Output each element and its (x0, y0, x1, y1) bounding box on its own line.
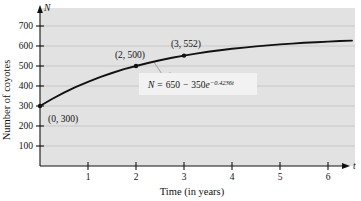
x-tick-label: 1 (86, 172, 91, 182)
x-tick-label: 3 (182, 172, 187, 182)
x-tick-label: 5 (278, 172, 283, 182)
x-tick-label: 6 (326, 172, 331, 182)
data-point-label: (0, 300) (48, 114, 78, 125)
y-axis-symbol: N (43, 3, 51, 13)
x-axis-title: Time (in years) (160, 186, 225, 198)
figure-container: 100200300400500600700 123456 N t Number … (0, 0, 361, 201)
x-tick-label: 4 (230, 172, 235, 182)
data-point-marker (182, 53, 186, 57)
data-point-label: (3, 552) (171, 39, 201, 50)
y-tick-label: 400 (19, 81, 34, 91)
y-tick-label: 600 (19, 41, 34, 51)
data-point-label: (2, 500) (115, 50, 145, 61)
y-tick-label: 100 (19, 141, 34, 151)
y-tick-label: 300 (19, 101, 34, 111)
data-point-marker (134, 64, 138, 68)
y-axis-title: Number of coyotes (1, 60, 12, 140)
y-tick-label: 500 (19, 61, 34, 71)
coyote-population-chart: 100200300400500600700 123456 N t Number … (0, 0, 361, 201)
y-tick-label: 200 (19, 121, 34, 131)
data-point-marker (38, 104, 42, 108)
y-tick-label: 700 (19, 21, 34, 31)
x-tick-label: 2 (134, 172, 139, 182)
x-axis-symbol: t (353, 161, 356, 171)
